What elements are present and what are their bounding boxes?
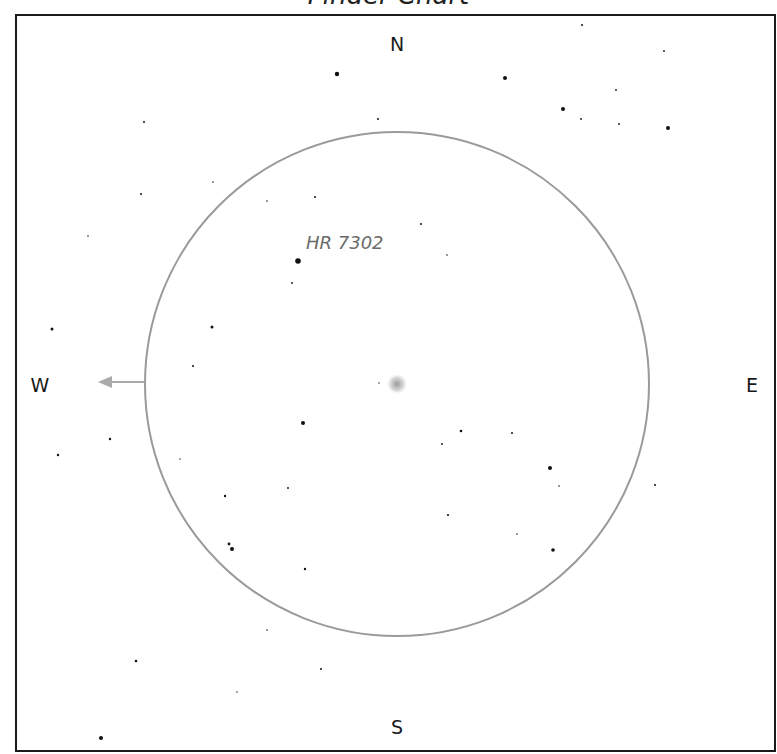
west-arrow-icon [98, 376, 145, 388]
star [140, 193, 142, 195]
star [666, 126, 670, 130]
star [236, 691, 237, 692]
star [211, 326, 214, 329]
star [420, 223, 422, 225]
star [314, 196, 316, 198]
star [377, 118, 379, 120]
compass-south: S [391, 716, 403, 738]
finder-chart [0, 0, 777, 754]
star [135, 660, 138, 663]
star [460, 430, 463, 433]
star [266, 629, 268, 631]
star [301, 421, 305, 425]
star [224, 495, 226, 497]
star [291, 282, 293, 284]
star [304, 568, 306, 570]
compass-east: E [746, 374, 758, 396]
compass-west: W [31, 374, 50, 396]
star [548, 466, 552, 470]
star-label-hr7302: HR 7302 [306, 232, 384, 253]
star [87, 235, 89, 237]
star [57, 454, 59, 456]
star [446, 254, 448, 256]
star [503, 76, 507, 80]
star [320, 668, 322, 670]
star [618, 123, 620, 125]
star [179, 458, 180, 459]
star [266, 200, 268, 202]
star [230, 547, 234, 551]
star [558, 485, 560, 487]
target-nebula-icon [386, 373, 408, 395]
star [516, 533, 518, 535]
star [511, 432, 513, 434]
star [580, 118, 582, 120]
star [212, 181, 214, 183]
star [143, 121, 145, 123]
star [615, 89, 617, 91]
star [295, 258, 301, 264]
star [654, 484, 656, 486]
star [99, 736, 103, 740]
star [551, 548, 555, 552]
star [378, 382, 379, 383]
star [228, 543, 231, 546]
star [561, 107, 565, 111]
star [441, 443, 443, 445]
star [581, 24, 583, 26]
star [51, 328, 54, 331]
star [109, 438, 111, 440]
star [447, 514, 449, 516]
star [287, 487, 289, 489]
star [335, 72, 339, 76]
compass-north: N [390, 33, 404, 55]
star [663, 50, 665, 52]
star [192, 365, 194, 367]
